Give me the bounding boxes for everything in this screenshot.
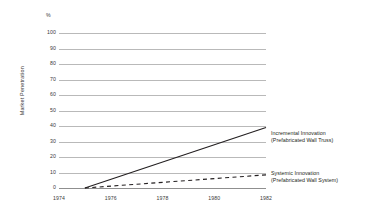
line-systemic-innovation bbox=[85, 175, 266, 188]
series-label-incremental: Incremental Innovation (Prefabricated Wa… bbox=[271, 130, 333, 144]
series-label-systemic: Systemic Innovation (Prefabricated Wall … bbox=[271, 170, 338, 184]
x-tick-1976: 1976 bbox=[91, 196, 131, 201]
series-label-systemic-sub: (Prefabricated Wall System) bbox=[271, 177, 338, 184]
x-tick-1978: 1978 bbox=[143, 196, 183, 201]
series-label-systemic-name: Systemic Innovation bbox=[271, 170, 338, 177]
x-tick-1980: 1980 bbox=[194, 196, 234, 201]
line-incremental-innovation bbox=[85, 128, 266, 188]
series-label-incremental-name: Incremental Innovation bbox=[271, 130, 333, 137]
x-tick-1974: 1974 bbox=[39, 196, 79, 201]
x-tick-1982: 1982 bbox=[246, 196, 286, 201]
series-label-incremental-sub: (Prefabricated Wall Truss) bbox=[271, 137, 333, 144]
market-penetration-chart: % Market Penetration 100 90 80 70 60 50 … bbox=[0, 0, 369, 216]
